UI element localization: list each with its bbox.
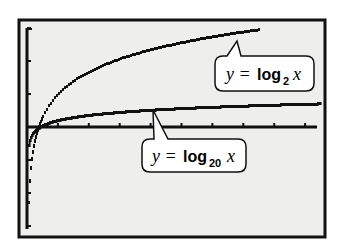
label-log20-var: x <box>226 146 235 166</box>
label-log20-prefix: y = <box>150 146 177 166</box>
label-log20-func: log <box>183 148 207 165</box>
calculator-graph-screen: y = log 2 x y = log 20 x <box>0 0 340 249</box>
label-log2-prefix: y = <box>224 64 251 84</box>
label-log20-sub: 20 <box>209 157 221 169</box>
label-log2-func: log <box>257 66 281 83</box>
label-log2-var: x <box>292 64 301 84</box>
label-log2-sub: 2 <box>283 75 289 87</box>
graph-plot: y = log 2 x y = log 20 x <box>0 0 340 249</box>
